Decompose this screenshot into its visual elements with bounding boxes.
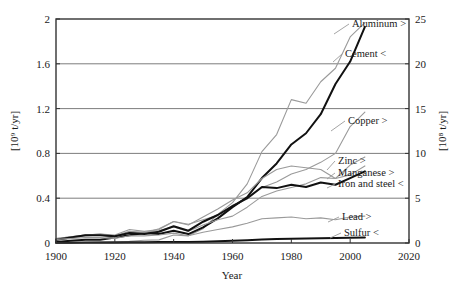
x-tick-label-2020: 2020: [398, 250, 421, 262]
series-label-copper: Copper >: [348, 115, 388, 126]
y-right-tick-label-20: 20: [415, 58, 427, 70]
y-axis-right-title: [10⁸ t/yr]: [436, 111, 448, 151]
y-left-tick-label-0.4: 0.4: [36, 192, 50, 204]
y-right-tick-label-25: 25: [415, 13, 427, 25]
y-right-tick-label-5: 5: [415, 192, 421, 204]
y-right-tick-label-0: 0: [415, 237, 421, 249]
x-tick-label-1960: 1960: [222, 250, 245, 262]
chart-figure: 1900192019401960198020002020 00.40.81.21…: [0, 0, 464, 291]
series-label-sulfur: Sulfur <: [344, 227, 379, 238]
y-left-tick-label-0.8: 0.8: [36, 147, 50, 159]
y-left-tick-label-2: 2: [45, 13, 51, 25]
y-left-tick-label-1.2: 1.2: [36, 103, 50, 115]
y-left-tick-label-0: 0: [45, 237, 51, 249]
chart-background: [0, 0, 464, 291]
series-label-lead: Lead >: [342, 211, 372, 222]
series-label-cement: Cement <: [345, 48, 386, 59]
production-trends-line-chart: 1900192019401960198020002020 00.40.81.21…: [0, 0, 464, 291]
series-label-manganese: Manganese >: [338, 167, 394, 178]
series-label-iron-and-steel: Iron and steel <: [338, 178, 404, 189]
series-label-aluminum: Aluminum >: [352, 18, 406, 29]
y-left-tick-label-1.6: 1.6: [36, 58, 50, 70]
x-tick-label-1940: 1940: [163, 250, 186, 262]
x-tick-label-1920: 1920: [104, 250, 127, 262]
y-right-tick-label-10: 10: [415, 147, 427, 159]
x-tick-label-2000: 2000: [339, 250, 362, 262]
y-axis-left-title: [10⁹ t/yr]: [8, 111, 20, 151]
x-tick-label-1900: 1900: [45, 250, 68, 262]
x-axis-title: Year: [222, 269, 243, 281]
series-label-zinc: Zinc >: [338, 155, 366, 166]
y-right-tick-label-15: 15: [415, 103, 427, 115]
x-tick-label-1980: 1980: [280, 250, 303, 262]
